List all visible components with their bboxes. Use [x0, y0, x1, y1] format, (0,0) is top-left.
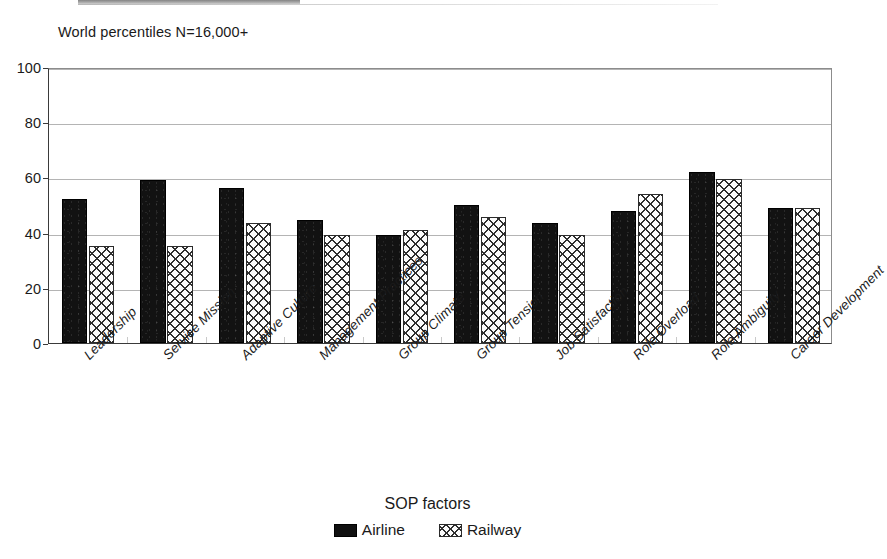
- bar-airline-management-practices: [297, 220, 323, 343]
- legend-label-railway: Railway: [467, 521, 521, 539]
- x-tick-mark-8: [755, 337, 756, 343]
- y-tick-label-40: 40: [0, 226, 41, 242]
- scan-artifact-hairline: [78, 4, 718, 5]
- bar-airline-role-overload: [611, 211, 637, 343]
- bar-airline-leadership: [62, 199, 88, 343]
- x-axis-title: SOP factors: [0, 495, 855, 513]
- x-tick-mark-7: [676, 337, 677, 343]
- y-tick-mark-60: [43, 178, 48, 179]
- bar-airline-group-climate: [376, 235, 402, 343]
- y-tick-label-60: 60: [0, 170, 41, 186]
- x-tick-mark-3: [363, 337, 364, 343]
- legend-item-railway: Railway: [439, 521, 521, 539]
- y-tick-mark-100: [43, 68, 48, 69]
- bar-airline-job-satisfaction: [532, 223, 558, 343]
- y-tick-label-100: 100: [0, 60, 41, 76]
- chart-title: World percentiles N=16,000+: [58, 24, 248, 40]
- bar-railway-job-satisfaction: [559, 235, 585, 343]
- bar-airline-adaptive-culture: [219, 188, 245, 343]
- bar-railway-management-practices: [324, 235, 350, 343]
- legend-label-airline: Airline: [362, 521, 405, 539]
- y-tick-label-0: 0: [0, 336, 41, 352]
- bar-railway-service-mission: [167, 246, 193, 343]
- legend-swatch-railway: [439, 524, 462, 537]
- bar-railway-adaptive-culture: [246, 223, 272, 343]
- bar-railway-group-tension: [481, 217, 507, 343]
- y-tick-mark-40: [43, 234, 48, 235]
- bar-airline-service-mission: [140, 180, 166, 343]
- legend-item-airline: Airline: [334, 521, 405, 539]
- x-tick-mark-4: [441, 337, 442, 343]
- legend-swatch-airline: [334, 524, 357, 537]
- bar-railway-role-ambiguity: [716, 179, 742, 343]
- bar-railway-role-overload: [638, 194, 664, 343]
- x-tick-mark-2: [284, 337, 285, 343]
- bar-railway-group-climate: [403, 230, 429, 343]
- bar-railway-leadership: [89, 246, 115, 343]
- bars-layer: [49, 69, 831, 343]
- y-tick-label-20: 20: [0, 281, 41, 297]
- plot-area: [48, 68, 832, 344]
- y-tick-mark-80: [43, 123, 48, 124]
- x-tick-mark-1: [206, 337, 207, 343]
- bar-airline-role-ambiguity: [689, 172, 715, 343]
- x-tick-mark-5: [519, 337, 520, 343]
- y-tick-label-80: 80: [0, 115, 41, 131]
- bar-railway-career-development: [795, 208, 821, 343]
- bar-airline-group-tension: [454, 205, 480, 343]
- bar-airline-career-development: [768, 208, 794, 343]
- chart-legend: Airline Railway: [0, 521, 855, 539]
- y-tick-mark-0: [43, 344, 48, 345]
- x-tick-mark-0: [127, 337, 128, 343]
- y-tick-mark-20: [43, 289, 48, 290]
- x-tick-mark-6: [598, 337, 599, 343]
